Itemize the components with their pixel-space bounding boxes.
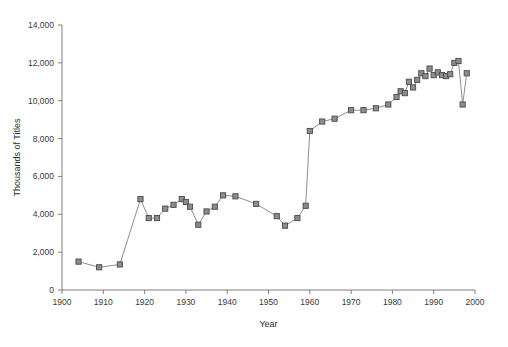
x-tick-label: 2000 [466, 297, 485, 307]
data-point-marker [154, 215, 159, 220]
data-point-marker [423, 74, 428, 79]
y-axis-tick-group: 02,0004,0006,0008,00010,00012,00014,000 [28, 20, 62, 295]
data-point-marker [361, 108, 366, 113]
data-point-marker [320, 119, 325, 124]
y-tick-label: 12,000 [28, 58, 54, 68]
data-point-marker [138, 197, 143, 202]
x-tick-label: 1910 [94, 297, 113, 307]
data-point-marker [220, 193, 225, 198]
data-point-marker [254, 201, 259, 206]
x-tick-label: 1930 [176, 297, 195, 307]
data-point-marker [303, 203, 308, 208]
x-axis-title: Year [259, 319, 277, 329]
x-tick-label: 1960 [300, 297, 319, 307]
y-tick-label: 10,000 [28, 96, 54, 106]
data-point-marker [295, 215, 300, 220]
data-point-marker [146, 215, 151, 220]
y-tick-label: 14,000 [28, 20, 54, 30]
data-point-marker [204, 209, 209, 214]
x-tick-label: 1940 [218, 297, 237, 307]
data-point-marker [460, 102, 465, 107]
y-axis-title: Thousands of Titles [12, 118, 22, 197]
data-point-marker [456, 58, 461, 63]
data-point-marker [464, 71, 469, 76]
data-point-marker [402, 91, 407, 96]
data-point-marker [448, 72, 453, 77]
line-chart-canvas: 02,0004,0006,0008,00010,00012,00014,000 … [0, 0, 508, 347]
data-point-marker [196, 222, 201, 227]
data-point-marker [410, 85, 415, 90]
y-tick-label: 4,000 [33, 209, 55, 219]
x-tick-label: 1990 [424, 297, 443, 307]
data-point-marker [163, 206, 168, 211]
data-point-marker [373, 106, 378, 111]
data-point-marker [187, 204, 192, 209]
data-point-marker [171, 202, 176, 207]
y-tick-label: 2,000 [33, 247, 55, 257]
x-axis-tick-group: 1900191019201930194019501960197019801990… [53, 290, 485, 307]
x-tick-label: 1980 [383, 297, 402, 307]
data-point-marker [117, 262, 122, 267]
chart-figure: 02,0004,0006,0008,00010,00012,00014,000 … [0, 0, 508, 347]
data-point-marker [394, 94, 399, 99]
x-tick-label: 1970 [342, 297, 361, 307]
x-tick-label: 1950 [259, 297, 278, 307]
data-point-marker [332, 116, 337, 121]
data-point-marker [282, 223, 287, 228]
x-tick-label: 1900 [53, 297, 72, 307]
data-point-marker [427, 66, 432, 71]
data-point-marker [97, 265, 102, 270]
data-series-line [79, 61, 467, 267]
data-point-marker [307, 128, 312, 133]
data-point-marker [212, 204, 217, 209]
data-point-markers [76, 58, 469, 270]
y-tick-label: 0 [49, 285, 54, 295]
data-point-marker [233, 194, 238, 199]
data-point-marker [349, 108, 354, 113]
data-point-marker [406, 79, 411, 84]
y-tick-label: 8,000 [33, 134, 55, 144]
data-point-marker [415, 77, 420, 82]
data-point-marker [386, 102, 391, 107]
data-point-marker [76, 259, 81, 264]
x-tick-label: 1920 [135, 297, 154, 307]
data-point-marker [274, 214, 279, 219]
y-tick-label: 6,000 [33, 171, 55, 181]
